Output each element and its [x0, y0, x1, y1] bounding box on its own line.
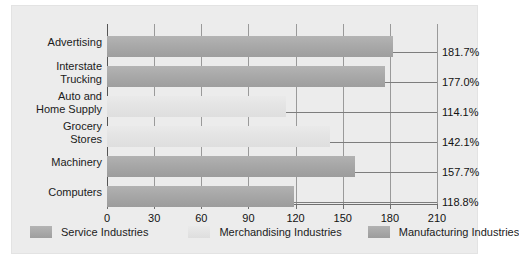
- leader-line-0: [393, 52, 437, 53]
- value-label-3: 142.1%: [442, 136, 479, 148]
- legend-label-service: Service Industries: [61, 226, 148, 238]
- chart-panel: Advertising Interstate Trucking Auto and…: [12, 6, 477, 253]
- legend-swatch-service-icon: [30, 226, 52, 238]
- value-label-2: 114.1%: [442, 106, 479, 118]
- bar-0[interactable]: [107, 36, 393, 57]
- legend-item-merchandising: Merchandising Industries: [188, 226, 341, 238]
- value-label-4: 157.7%: [442, 166, 479, 178]
- leader-line-5: [294, 202, 437, 203]
- bar-2[interactable]: [107, 96, 286, 117]
- x-tick-210: [437, 204, 438, 209]
- gridline-210: [437, 24, 438, 204]
- category-label-grocery-stores: Grocery Stores: [26, 120, 102, 146]
- legend-item-manufacturing: Manufacturing Industries: [368, 226, 519, 238]
- category-label-auto-and-home-supply: Auto and Home Supply: [16, 90, 102, 116]
- legend-label-merchandising: Merchandising Industries: [219, 226, 341, 238]
- category-label-interstate-trucking: Interstate Trucking: [26, 60, 102, 86]
- bar-1[interactable]: [107, 66, 385, 87]
- plot-area: [107, 24, 437, 204]
- leader-line-2: [286, 112, 437, 113]
- legend-swatch-manufacturing-icon: [368, 226, 390, 238]
- value-label-0: 181.7%: [442, 46, 479, 58]
- legend-swatch-merchandising-icon: [188, 226, 210, 238]
- bar-5[interactable]: [107, 186, 294, 207]
- legend-label-manufacturing: Manufacturing Industries: [399, 226, 519, 238]
- leader-line-4: [355, 172, 437, 173]
- bar-4[interactable]: [107, 156, 355, 177]
- chart-legend: Service Industries Merchandising Industr…: [12, 222, 477, 242]
- bar-3[interactable]: [107, 126, 330, 147]
- category-label-machinery: Machinery: [26, 156, 102, 169]
- category-label-advertising: Advertising: [26, 36, 102, 49]
- value-label-5: 118.8%: [442, 196, 479, 208]
- leader-line-1: [385, 82, 437, 83]
- legend-item-service: Service Industries: [30, 226, 148, 238]
- value-label-1: 177.0%: [442, 76, 479, 88]
- leader-line-3: [330, 142, 437, 143]
- category-label-computers: Computers: [26, 186, 102, 199]
